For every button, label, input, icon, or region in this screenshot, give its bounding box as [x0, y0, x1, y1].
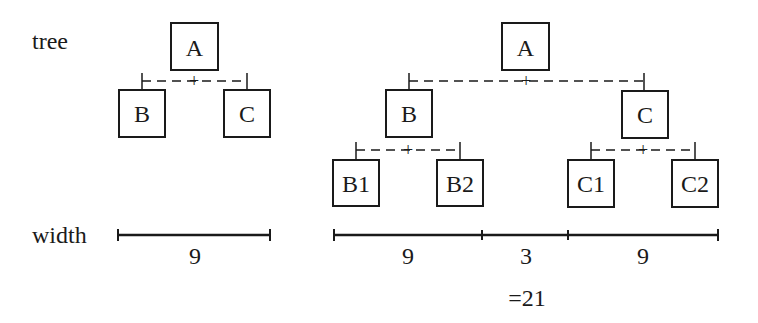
right-width-total: =21	[508, 285, 546, 311]
left-node-b-label: B	[134, 101, 150, 127]
right-width-segment-1: 9	[402, 243, 414, 269]
right-plus-symbol-c: +	[638, 140, 648, 160]
left-width-value: 9	[189, 243, 201, 269]
right-node-c-label: C	[637, 102, 653, 128]
tree-width-diagram: tree width + A B C 9	[0, 0, 758, 323]
right-plus-symbol-b: +	[403, 140, 413, 160]
right-width-segment-3: 9	[637, 243, 649, 269]
right-node-b1-label: B1	[342, 171, 370, 197]
right-plus-symbol-top: +	[521, 71, 531, 91]
width-row-label: width	[32, 222, 87, 248]
right-width-segment-2: 3	[520, 243, 532, 269]
left-width-ruler	[118, 229, 270, 241]
right-node-c2-label: C2	[681, 171, 709, 197]
right-node-c1-label: C1	[577, 171, 605, 197]
right-node-b2-label: B2	[446, 171, 474, 197]
left-node-a-label: A	[186, 35, 204, 61]
left-node-c-label: C	[239, 101, 255, 127]
left-plus-symbol: +	[189, 71, 199, 91]
right-node-b-label: B	[401, 101, 417, 127]
right-width-ruler	[334, 229, 718, 241]
tree-row-label: tree	[32, 28, 68, 54]
right-node-a-label: A	[517, 35, 535, 61]
